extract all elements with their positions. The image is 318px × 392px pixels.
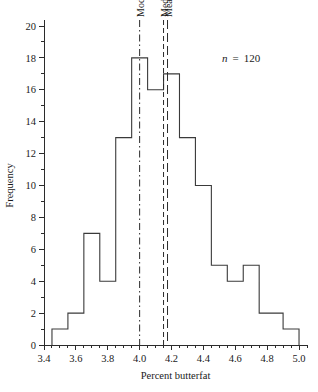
y-tick-label: 14: [26, 116, 37, 127]
x-axis-title: Percent butterfat: [141, 370, 211, 381]
x-tick-label: 3.6: [69, 353, 82, 364]
x-tick-label: 4.0: [133, 353, 146, 364]
reference-label-mode: Mode: [135, 0, 146, 17]
histogram-figure: 024681012141618203.43.63.84.04.24.44.64.…: [0, 0, 318, 392]
x-tick-label: 3.4: [37, 353, 51, 364]
reference-label-mean: Mean: [163, 0, 174, 17]
x-tick-label: 3.8: [101, 353, 114, 364]
y-tick-label: 4: [31, 276, 37, 287]
y-tick-label: 20: [26, 21, 37, 32]
y-tick-label: 8: [31, 212, 36, 223]
histogram-outline: [52, 58, 299, 345]
x-tick-label: 4.8: [261, 353, 274, 364]
sample-size-annotation: n=120: [222, 52, 261, 64]
y-tick-label: 12: [26, 148, 37, 159]
x-tick-label: 4.4: [197, 353, 211, 364]
x-tick-label: 5.0: [292, 353, 305, 364]
y-tick-label: 16: [26, 84, 37, 95]
y-tick-label: 18: [26, 53, 37, 64]
x-tick-label: 4.6: [229, 353, 242, 364]
x-tick-label: 4.2: [165, 353, 178, 364]
y-tick-label: 10: [26, 180, 37, 191]
y-tick-label: 2: [31, 308, 36, 319]
y-tick-label: 0: [31, 340, 36, 351]
y-axis-title: Frequency: [4, 163, 15, 208]
y-tick-label: 6: [31, 244, 36, 255]
histogram-chart: 024681012141618203.43.63.84.04.24.44.64.…: [0, 0, 318, 392]
